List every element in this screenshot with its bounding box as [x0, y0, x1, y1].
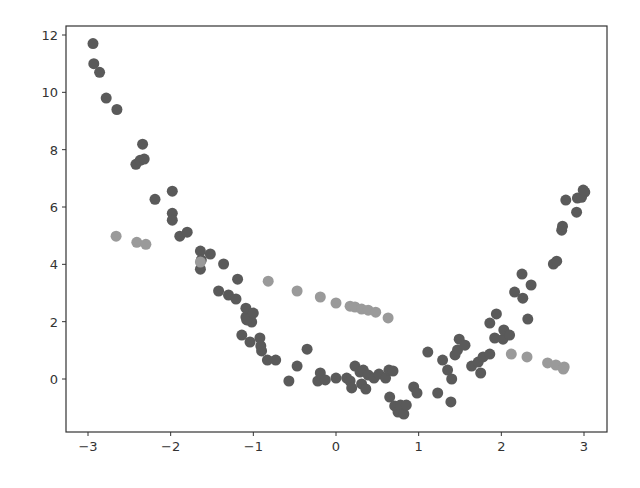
x-tick-label: −2	[161, 439, 180, 454]
data-point	[517, 293, 528, 304]
data-point	[401, 400, 412, 411]
data-point	[557, 221, 568, 232]
data-point	[346, 382, 357, 393]
data-point	[560, 195, 571, 206]
data-point	[506, 349, 517, 360]
data-point	[475, 368, 486, 379]
data-point	[320, 374, 331, 385]
y-tick-label: 6	[50, 200, 58, 215]
data-point	[331, 298, 342, 309]
x-tick-label: 1	[415, 439, 423, 454]
y-axis: 024681012	[41, 28, 66, 387]
data-point	[150, 194, 161, 205]
data-point	[195, 257, 206, 268]
y-tick-label: 2	[50, 315, 58, 330]
data-point	[484, 349, 495, 360]
data-point	[213, 286, 224, 297]
data-point	[88, 38, 99, 49]
y-tick-label: 10	[41, 85, 58, 100]
y-tick-label: 4	[50, 257, 58, 272]
data-point	[139, 154, 150, 165]
data-point	[137, 139, 148, 150]
data-points	[88, 38, 591, 419]
data-point	[504, 330, 515, 341]
data-point	[522, 314, 533, 325]
data-point	[522, 351, 533, 362]
data-point	[383, 312, 394, 323]
data-point	[205, 249, 216, 260]
data-point	[360, 384, 371, 395]
data-point	[437, 355, 448, 366]
data-point	[292, 361, 303, 372]
data-point	[167, 215, 178, 226]
scatter-chart: −3−2−10123 024681012	[0, 0, 640, 488]
data-point	[167, 186, 178, 197]
data-point	[111, 231, 122, 242]
x-tick-label: −3	[78, 439, 97, 454]
x-axis: −3−2−10123	[78, 432, 588, 454]
x-tick-label: 0	[332, 439, 340, 454]
data-point	[94, 67, 105, 78]
data-point	[460, 340, 471, 351]
data-point	[388, 366, 399, 377]
data-point	[263, 276, 274, 287]
data-point	[182, 227, 193, 238]
series-model	[111, 231, 570, 375]
data-point	[571, 207, 582, 218]
axes-frame	[66, 26, 607, 432]
data-point	[101, 93, 112, 104]
x-tick-label: −1	[244, 439, 263, 454]
data-point	[331, 373, 342, 384]
data-point	[255, 341, 266, 352]
data-point	[245, 337, 256, 348]
x-tick-label: 2	[497, 439, 505, 454]
y-tick-label: 8	[50, 143, 58, 158]
data-point	[491, 308, 502, 319]
series-data	[88, 38, 591, 419]
data-point	[315, 292, 326, 303]
data-point	[370, 307, 381, 318]
data-point	[302, 344, 313, 355]
data-point	[283, 376, 294, 387]
data-point	[412, 388, 423, 399]
data-point	[446, 374, 457, 385]
data-point	[578, 185, 589, 196]
data-point	[422, 347, 433, 358]
data-point	[248, 308, 259, 319]
x-tick-label: 3	[580, 439, 588, 454]
data-point	[270, 355, 281, 366]
data-point	[558, 364, 569, 375]
data-point	[445, 396, 456, 407]
y-tick-label: 12	[41, 28, 58, 43]
data-point	[140, 239, 151, 250]
data-point	[292, 286, 303, 297]
data-point	[526, 280, 537, 291]
data-point	[517, 269, 528, 280]
data-point	[484, 318, 495, 329]
data-point	[551, 256, 562, 267]
y-tick-label: 0	[50, 372, 58, 387]
data-point	[232, 274, 243, 285]
data-point	[231, 294, 242, 305]
data-point	[111, 104, 122, 115]
data-point	[432, 388, 443, 399]
data-point	[218, 259, 229, 270]
data-point	[131, 237, 142, 248]
